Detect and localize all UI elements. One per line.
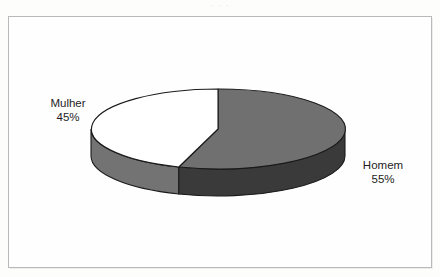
slice-label-homem-value: 55% [352,173,414,187]
slice-label-homem-name: Homem [352,159,414,173]
slice-label-mulher: Mulher 45% [37,97,99,124]
slice-label-mulher-value: 45% [37,111,99,125]
slice-label-homem: Homem 55% [352,159,414,186]
pie-chart: Mulher 45% Homem 55% [0,0,440,277]
pie-chart-graphic [0,0,440,277]
slice-label-mulher-name: Mulher [37,97,99,111]
